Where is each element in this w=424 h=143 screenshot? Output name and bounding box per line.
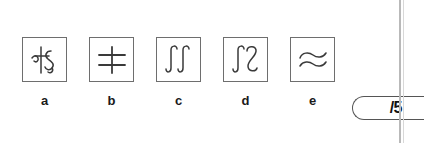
choice-label-a: a: [41, 94, 48, 107]
choice-option-b[interactable]: b: [89, 37, 134, 107]
choice-options-row: a b: [22, 37, 335, 107]
choice-label-d: d: [242, 94, 250, 107]
score-entry-field[interactable]: /5: [352, 96, 424, 120]
choice-label-e: e: [309, 94, 316, 107]
vertical-with-two-horizontal-bars-glyph: [91, 39, 133, 81]
choice-label-c: c: [175, 94, 182, 107]
choice-option-d[interactable]: d: [223, 37, 268, 107]
choice-box-d[interactable]: [223, 37, 268, 82]
choice-box-b[interactable]: [89, 37, 134, 82]
integral-and-mirrored-integral-glyph: [225, 39, 267, 81]
choice-box-c[interactable]: [156, 37, 201, 82]
crossed-vertical-with-s-curve-glyph: [24, 39, 66, 81]
choice-option-e[interactable]: e: [290, 37, 335, 107]
choice-option-c[interactable]: c: [156, 37, 201, 107]
two-horizontal-wave-lines-glyph: [292, 39, 334, 81]
choice-label-b: b: [108, 94, 116, 107]
choice-option-a[interactable]: a: [22, 37, 67, 107]
page-border-rule-secondary: [403, 0, 404, 143]
double-integral-glyph: [158, 39, 200, 81]
page-border-rule: [399, 0, 401, 143]
choice-box-a[interactable]: [22, 37, 67, 82]
choice-box-e[interactable]: [290, 37, 335, 82]
